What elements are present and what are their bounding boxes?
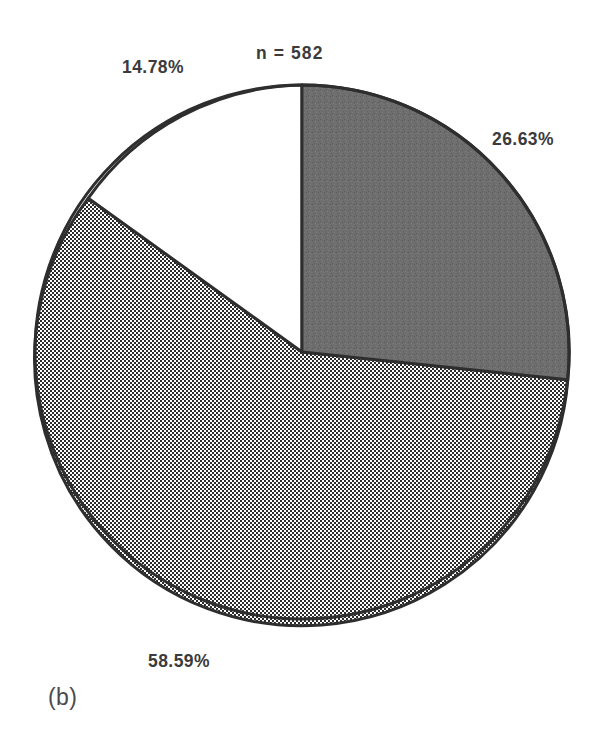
pie-chart-figure: n = 582 14.78% 26.63% 58.59% (b) bbox=[0, 0, 607, 753]
sample-size-label: n = 582 bbox=[256, 42, 324, 64]
figure-caption: (b) bbox=[48, 684, 77, 711]
pie-chart-graphic bbox=[0, 0, 607, 753]
pie-label-white-slice: 14.78% bbox=[122, 56, 184, 78]
pie-label-hatched-slice: 58.59% bbox=[148, 650, 210, 672]
pie-label-dark-slice: 26.63% bbox=[492, 128, 554, 150]
